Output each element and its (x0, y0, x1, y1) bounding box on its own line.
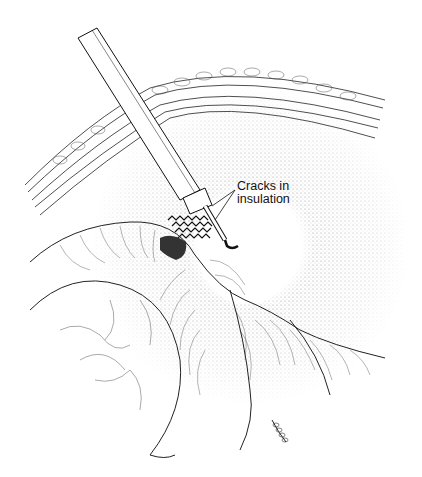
annotation-label: Cracks in insulation (237, 180, 290, 206)
surgical-drawing (0, 0, 422, 477)
illustration: Cracks in insulation (0, 0, 422, 477)
annotation-line-2: insulation (237, 193, 290, 206)
